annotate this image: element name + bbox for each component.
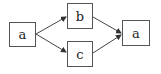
edge-a-to-c — [36, 34, 66, 52]
node-label: b — [76, 9, 84, 24]
node-label: a — [19, 27, 27, 42]
node-a-target: a — [122, 20, 150, 46]
node-label: a — [132, 26, 140, 41]
node-b: b — [67, 3, 93, 29]
node-a-source: a — [9, 22, 36, 47]
edge-a-to-b — [36, 17, 66, 34]
edge-b-to-a — [93, 17, 121, 33]
edge-c-to-a — [93, 35, 121, 53]
node-label: c — [76, 47, 83, 62]
node-c: c — [67, 41, 93, 67]
